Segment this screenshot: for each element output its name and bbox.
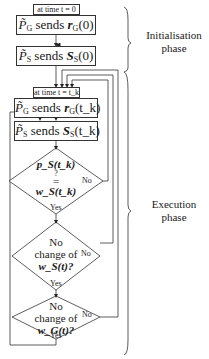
actor-sub: G [26, 24, 32, 33]
time-tk-label: at time t = t_k [34, 88, 79, 97]
pg-sends-rg-0-box: P̃G sends rG(0) [16, 15, 96, 35]
decision-line: change of [21, 312, 91, 324]
verb: sends [35, 17, 64, 32]
pg-sends-rg-tk-box: P̃G sends rG(t_k) [14, 98, 98, 118]
signal: S [63, 123, 70, 138]
actor: P̃ [15, 123, 23, 138]
execution-phase-label: Execution phase [140, 198, 208, 224]
ps-sends-ss-0-box: P̃S sends SS(0) [16, 46, 96, 66]
actor-sub: S [27, 55, 31, 64]
decision-line: w_S(t_k) [26, 185, 86, 197]
initialisation-phase-label: Initialisation phase [140, 29, 208, 55]
decision-ps-equals-ws: p_S(t_k) ? = w_S(t_k) [26, 158, 86, 197]
arg: (t_k) [75, 100, 100, 115]
decision-line: w_S(t)? [21, 260, 91, 272]
yes-label: Yes [50, 331, 62, 340]
signal: S [66, 48, 73, 63]
yes-label: Yes [50, 203, 62, 212]
arg: (0) [78, 17, 93, 32]
arg: (0) [78, 48, 93, 63]
actor-sub: G [23, 107, 29, 116]
decision-line: = [26, 177, 86, 185]
phase-line: Initialisation [140, 29, 208, 42]
verb: sends [34, 48, 63, 63]
phase-line: phase [140, 42, 208, 55]
phase-line: Execution [140, 198, 208, 211]
no-label: No [82, 176, 92, 185]
actor: P̃ [19, 48, 27, 63]
no-label: No [82, 310, 92, 319]
yes-label: Yes [50, 279, 62, 288]
actor: P̃ [15, 100, 23, 115]
no-label: No [81, 249, 91, 258]
phase-line: phase [140, 211, 208, 224]
ps-sends-ss-tk-box: P̃S sends SS(t_k) [14, 121, 98, 141]
time-tk-tag: at time t = t_k [33, 87, 80, 98]
verb: sends [31, 123, 60, 138]
verb: sends [32, 100, 61, 115]
time-zero-tag: at time t = 0 [33, 4, 80, 15]
decision-line: No [21, 236, 91, 248]
decision-line: No [21, 300, 91, 312]
time-zero-label: at time t = 0 [37, 5, 76, 14]
arg: (t_k) [74, 123, 99, 138]
actor-sub: S [23, 130, 27, 139]
